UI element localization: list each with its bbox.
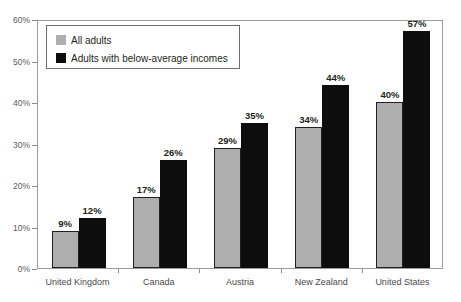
x-axis-category-label: Canada	[143, 277, 175, 288]
y-axis-tick-label: 30%	[13, 140, 30, 149]
bar-value-label: 29%	[218, 136, 237, 146]
bar[interactable]: 34%	[295, 127, 322, 268]
bar-wrapper: 9%	[52, 231, 79, 268]
x-axis-category-label: United States	[375, 277, 429, 288]
bar-wrapper: 40%	[376, 102, 403, 268]
bar-wrapper: 44%	[322, 85, 349, 268]
bar-group: 9%12%	[51, 218, 107, 268]
bar-value-label: 35%	[245, 111, 264, 121]
bar-wrapper: 17%	[133, 197, 160, 268]
legend-label-below-average-incomes: Adults with below-average incomes	[71, 53, 228, 64]
bar-wrapper: 29%	[214, 148, 241, 268]
bar-group: 29%35%	[213, 123, 269, 268]
y-axis: 0%10%20%30%40%50%60%	[0, 0, 37, 302]
legend-swatch-icon-below-average-incomes	[56, 53, 66, 63]
bar-value-label: 40%	[380, 90, 399, 100]
bar-wrapper: 26%	[160, 160, 187, 268]
x-axis: United KingdomCanadaAustriaNew ZealandUn…	[37, 269, 443, 302]
bar-group: 40%57%	[375, 31, 431, 268]
bar-value-label: 26%	[164, 148, 183, 158]
bar-value-label: 9%	[58, 219, 72, 229]
x-axis-tick-mark	[362, 269, 363, 273]
bar-wrapper: 12%	[79, 218, 106, 268]
bar[interactable]: 57%	[403, 31, 430, 268]
bar[interactable]: 12%	[79, 218, 106, 268]
x-axis-category-label: United Kingdom	[46, 277, 110, 288]
chart-legend: All adults Adults with below-average inc…	[46, 25, 240, 69]
bar[interactable]: 26%	[160, 160, 187, 268]
y-axis-tick-label: 40%	[13, 99, 30, 108]
bar-value-label: 44%	[326, 73, 345, 83]
y-axis-tick-label: 60%	[13, 16, 30, 25]
bar-group: 17%26%	[132, 160, 188, 268]
bar-wrapper: 34%	[295, 127, 322, 268]
bar-wrapper: 57%	[403, 31, 430, 268]
bar-value-label: 34%	[299, 115, 318, 125]
bar[interactable]: 40%	[376, 102, 403, 268]
bar-wrapper: 35%	[241, 123, 268, 268]
y-axis-tick-label: 0%	[18, 265, 30, 274]
x-axis-tick-mark	[281, 269, 282, 273]
bar[interactable]: 44%	[322, 85, 349, 268]
x-axis-category-label: New Zealand	[295, 277, 348, 288]
x-axis-tick-mark	[118, 269, 119, 273]
x-axis-category-label: Austria	[226, 277, 254, 288]
bar-group: 34%44%	[294, 85, 350, 268]
legend-label-all-adults: All adults	[71, 35, 112, 46]
legend-item-all-adults: All adults	[56, 32, 239, 48]
bar-value-label: 12%	[83, 206, 102, 216]
y-axis-tick-label: 20%	[13, 182, 30, 191]
y-axis-tick-label: 10%	[13, 223, 30, 232]
bar-value-label: 57%	[407, 19, 426, 29]
bar-value-label: 17%	[137, 185, 156, 195]
bar[interactable]: 9%	[52, 231, 79, 268]
bar-chart: 0%10%20%30%40%50%60% 9%12%17%26%29%35%34…	[0, 0, 461, 302]
x-axis-tick-mark	[199, 269, 200, 273]
bar[interactable]: 17%	[133, 197, 160, 268]
legend-item-below-average-incomes: Adults with below-average incomes	[56, 50, 239, 66]
legend-swatch-icon-all-adults	[56, 35, 66, 45]
bar[interactable]: 29%	[214, 148, 241, 268]
bar[interactable]: 35%	[241, 123, 268, 268]
y-axis-tick-label: 50%	[13, 57, 30, 66]
